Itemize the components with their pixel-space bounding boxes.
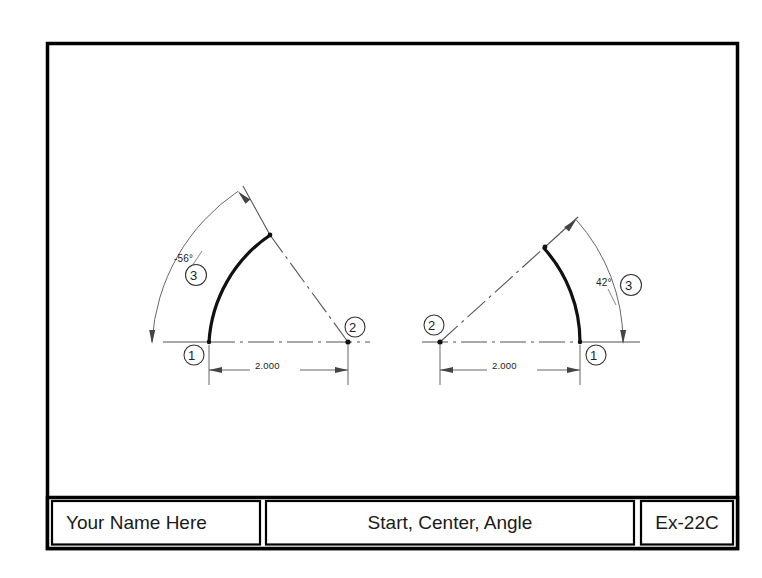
left-start-point-marker <box>207 340 211 344</box>
right-start-point-marker <box>578 340 582 344</box>
title-block-exercise-number-text[interactable]: Ex-22C <box>641 500 733 545</box>
title-block-drawing-title-text[interactable]: Start, Center, Angle <box>266 500 634 545</box>
left-arc-end-marker <box>268 233 273 238</box>
drawing-sheet <box>0 0 762 578</box>
right-center-point-marker <box>437 339 442 344</box>
right-radius-dimension-label: 2.000 <box>492 360 517 371</box>
left-bubble-2-label: 2 <box>349 320 356 335</box>
right-arc-end-marker <box>543 245 548 250</box>
left-radius-dimension-label: 2.000 <box>255 360 280 371</box>
left-angle-label: -56° <box>174 253 193 264</box>
right-angle-label: 42° <box>596 277 612 288</box>
left-bubble-1-label: 1 <box>188 348 195 363</box>
right-bubble-3-label: 3 <box>625 278 632 293</box>
right-bubble-1-label: 1 <box>590 348 597 363</box>
title-block-name-text[interactable]: Your Name Here <box>52 500 260 545</box>
left-bubble-3-label: 3 <box>190 268 197 283</box>
sheet-border <box>48 44 738 549</box>
left-center-point-marker <box>345 339 350 344</box>
right-bubble-2-label: 2 <box>428 318 435 333</box>
